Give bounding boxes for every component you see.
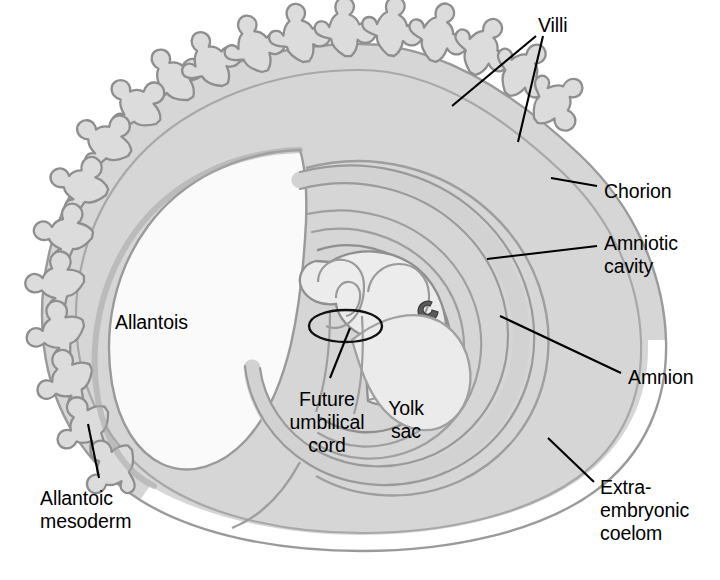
label-allantois: Allantois [115,311,188,334]
label-villi: Villi [538,14,567,37]
label-chorion: Chorion [604,180,672,203]
label-allantoic-mesoderm: Allantoic mesoderm [40,487,131,533]
label-extra-embryonic-coelom: Extra- embryonic coelom [600,476,689,545]
label-yolk-sac: Yolk sac [371,397,441,443]
label-amnion: Amnion [628,366,694,389]
label-amniotic-cavity: Amniotic cavity [604,232,678,278]
